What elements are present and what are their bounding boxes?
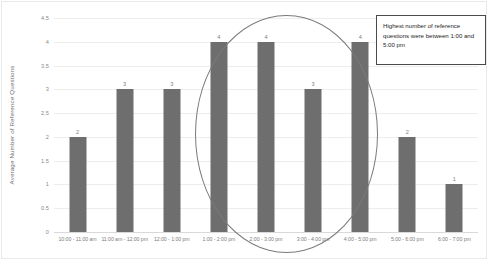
bar-slot: 33:00 - 4:00 pm [290, 18, 337, 232]
x-axis-tick-label: 4:00 - 5:00 pm [344, 236, 377, 242]
bar-value-label: 1 [453, 176, 456, 182]
y-axis-tick-label: 1.5 [41, 158, 49, 164]
bar-value-label: 2 [76, 129, 79, 135]
bar-value-label: 2 [406, 129, 409, 135]
bar[interactable] [305, 89, 322, 232]
x-axis-tick-label: 3:00 - 4:00 pm [297, 236, 330, 242]
y-axis-tick-label: 2 [46, 134, 49, 140]
x-axis-tick-label: 6:00 - 7:00 pm [438, 236, 471, 242]
bar-slot: 41:00 - 2:00 pm [195, 18, 242, 232]
y-axis-tick-label: 3.5 [41, 63, 49, 69]
y-axis-tick-label: 3 [46, 86, 49, 92]
bar-value-label: 4 [217, 34, 220, 40]
chart-frame: Average Number of Reference Questions 00… [1, 1, 487, 259]
bar-slot: 42:00 - 3:00 pm [242, 18, 289, 232]
bar-slot: 312:00 - 1:00 pm [148, 18, 195, 232]
gridline [54, 232, 478, 233]
x-axis-tick-label: 11:00 am - 12:00 pm [101, 236, 148, 242]
bar-slot: 311:00 am - 12:00 pm [101, 18, 148, 232]
x-axis-tick-label: 10:00 - 11:00 am [59, 236, 97, 242]
bar-value-label: 3 [170, 81, 173, 87]
callout-text-box: Highest number of reference questions we… [376, 15, 486, 65]
y-axis-tick-label: 4 [46, 39, 49, 45]
bar-value-label: 3 [312, 81, 315, 87]
chart-screenshot: Average Number of Reference Questions 00… [0, 0, 490, 272]
bar[interactable] [257, 42, 274, 232]
bar[interactable] [210, 42, 227, 232]
x-axis-tick-label: 1:00 - 2:00 pm [202, 236, 235, 242]
y-axis-title: Average Number of Reference Questions [6, 18, 18, 232]
y-axis-tick-label: 0 [46, 229, 49, 235]
bar[interactable] [352, 42, 369, 232]
x-axis-tick-label: 12:00 - 1:00 pm [154, 236, 190, 242]
bar[interactable] [446, 184, 463, 232]
bar-value-label: 3 [123, 81, 126, 87]
y-axis-tick-label: 0.5 [41, 205, 49, 211]
y-axis-tick-label: 2.5 [41, 110, 49, 116]
y-axis-tick-label: 1 [46, 181, 49, 187]
bar-value-label: 4 [359, 34, 362, 40]
bar[interactable] [116, 89, 133, 232]
y-axis-tick-label: 4.5 [41, 15, 49, 21]
bar[interactable] [163, 89, 180, 232]
x-axis-tick-label: 2:00 - 3:00 pm [250, 236, 283, 242]
x-axis-tick-label: 5:00 - 6:00 pm [391, 236, 424, 242]
bar[interactable] [69, 137, 86, 232]
bar[interactable] [399, 137, 416, 232]
bar-value-label: 4 [264, 34, 267, 40]
bar-slot: 210:00 - 11:00 am [54, 18, 101, 232]
